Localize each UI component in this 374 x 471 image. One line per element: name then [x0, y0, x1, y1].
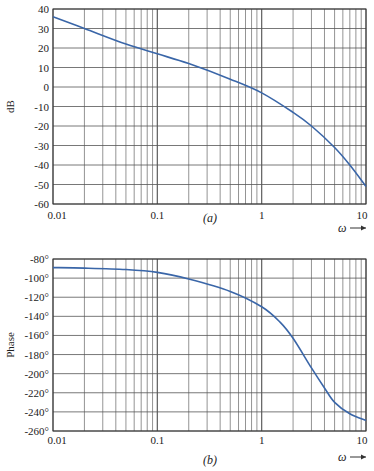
y-tick-label: -10 — [34, 101, 49, 113]
y-tick-label: -260° — [24, 425, 49, 437]
figure-caption: (a) — [203, 211, 217, 225]
y-tick-label: 40 — [38, 3, 50, 15]
x-tick-label: 0.01 — [47, 434, 66, 446]
x-tick-label: 0.1 — [150, 209, 164, 221]
y-tick-label: -220° — [24, 387, 49, 399]
phase-curve — [53, 268, 366, 421]
y-tick-label: 10 — [38, 62, 50, 74]
figure-caption: (b) — [203, 453, 217, 467]
x-axis-label: ω — [338, 450, 346, 464]
y-tick-label: -240° — [24, 406, 49, 418]
magnitude-plot: 403020100-10-20-30-40-50-600.010.1110dB(… — [4, 3, 368, 235]
y-tick-label: -100° — [24, 272, 49, 284]
y-tick-label: 20 — [38, 42, 50, 54]
x-tick-label: 0.01 — [47, 209, 66, 221]
y-tick-label: -20 — [34, 120, 49, 132]
y-tick-label: 30 — [38, 23, 50, 35]
x-axis-label: ω — [338, 221, 346, 235]
y-tick-label: -160° — [24, 329, 49, 341]
y-tick-label: -80° — [30, 253, 49, 265]
y-tick-label: 0 — [44, 81, 50, 93]
y-tick-label: -140° — [24, 310, 49, 322]
magnitude-curve — [53, 17, 366, 187]
y-tick-label: -180° — [24, 349, 49, 361]
y-tick-label: -40 — [34, 159, 49, 171]
bode-plot-figure: 403020100-10-20-30-40-50-600.010.1110dB(… — [0, 0, 374, 471]
x-tick-label: 0.1 — [150, 434, 164, 446]
y-axis-label: Phase — [4, 332, 16, 358]
y-tick-label: -30 — [34, 140, 49, 152]
y-tick-label: -120° — [24, 291, 49, 303]
phase-plot: -80°-100°-120°-140°-160°-180°-200°-220°-… — [4, 253, 368, 467]
x-tick-label: 10 — [357, 434, 369, 446]
arrowhead-icon — [361, 455, 366, 460]
x-tick-label: 10 — [357, 209, 369, 221]
x-tick-label: 1 — [259, 209, 265, 221]
x-tick-label: 1 — [259, 434, 265, 446]
arrowhead-icon — [361, 226, 366, 231]
y-tick-label: -50 — [34, 179, 49, 191]
y-tick-label: -200° — [24, 368, 49, 380]
y-axis-label: dB — [4, 100, 16, 113]
